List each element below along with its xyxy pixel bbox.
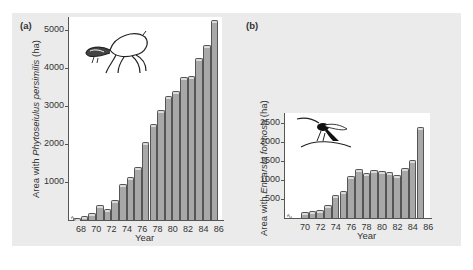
chart-a-x-axis [68,220,224,221]
bar-69 [88,215,96,220]
y-tick-mark [65,30,68,31]
y-tick-label: 5000 [28,24,64,34]
chart-b-y-axis [284,113,285,219]
bar-77 [150,126,158,220]
bar-78 [157,112,165,220]
bar-73 [324,207,332,218]
bar-80 [172,93,180,220]
bar-84 [203,47,211,220]
bar-83 [195,60,203,220]
bar-76 [347,178,355,218]
y-tick-mark [281,161,284,162]
bar-79 [370,172,378,218]
chart-a-y-label-species: Phytoseiulus persimilis [30,60,41,156]
bar-77 [355,171,363,219]
bar-82 [393,177,401,218]
bar-76 [142,144,150,220]
chart-b-y-label-suffix: (ha) [258,100,269,120]
y-tick-mark [281,142,284,143]
chart-b-y-label-species: Encarsia formosa [258,120,269,194]
y-tick-mark [281,180,284,181]
chart-a-y-label: Area with Phytoseiulus persimilis (ha) [30,40,41,198]
bar-81 [386,174,394,218]
bar-72 [111,202,119,220]
bar-85 [417,129,425,218]
bar-84 [409,162,417,218]
chart-b-y-label-prefix: Area with [258,194,269,236]
bar-71 [104,211,112,221]
y-tick-mark [65,68,68,69]
bar-68 [81,218,89,220]
y-tick-mark [65,144,68,145]
panel-b-label: (b) [246,20,258,31]
predatory-mite-icon [80,25,155,80]
y-tick-mark [281,123,284,124]
bar-74 [332,197,340,218]
bar-70 [301,214,309,218]
bar-74 [127,179,135,220]
parasitoid-wasp-icon [295,113,355,153]
chart-b-y-label: Area with Encarsia formosa (ha) [258,100,269,236]
bar-75 [340,193,348,218]
bar-78 [363,175,371,218]
axis-break-icon: ∿ [286,212,293,221]
chart-b-x-axis [284,218,432,219]
x-tick-label: 86 [418,222,438,232]
bar-72 [316,212,324,218]
chart-b-x-label: Year [357,230,376,241]
y-tick-mark [65,106,68,107]
bar-80 [378,173,386,218]
bar-83 [401,170,409,218]
chart-a-x-label: Year [135,232,154,243]
chart-a-y-label-suffix: (ha) [30,40,41,60]
chart-a-y-axis [68,17,69,221]
y-tick-mark [281,199,284,200]
bar-79 [165,98,173,220]
chart-a-y-label-prefix: Area with [30,156,41,198]
bar-70 [96,207,104,220]
bar-82 [188,78,196,220]
x-tick-label: 86 [209,224,229,234]
bar-71 [309,213,317,218]
axis-break-icon: ∿ [70,214,77,223]
y-tick-mark [65,182,68,183]
bar-75 [134,169,142,220]
bar-81 [180,79,188,220]
bar-85 [211,22,219,220]
bar-73 [119,186,127,220]
